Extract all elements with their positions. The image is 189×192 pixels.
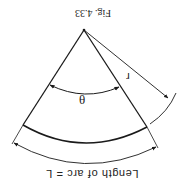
figure-caption: Fig. 4.33 xyxy=(75,8,111,19)
radius-extension-arc xyxy=(150,93,176,124)
arc-length-label: Length of arc = L xyxy=(45,168,138,180)
right-extension-line xyxy=(147,127,158,148)
sector-left-radius xyxy=(23,30,84,125)
sector-shape xyxy=(23,29,147,143)
sector-arc xyxy=(23,125,147,143)
sector-diagram: θ r Length of arc = L Fig. 4.33 xyxy=(0,0,189,192)
arc-length-dimension xyxy=(14,143,156,164)
left-extension-line xyxy=(12,125,23,144)
sector-right-radius xyxy=(84,30,147,127)
radius-label: r xyxy=(126,71,130,83)
theta-label: θ xyxy=(79,92,85,107)
radius-dimension-line xyxy=(84,30,168,98)
